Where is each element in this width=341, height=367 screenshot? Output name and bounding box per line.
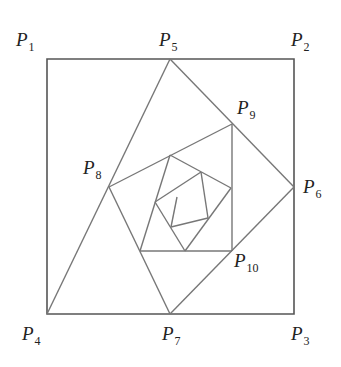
label-p6: P6	[303, 177, 322, 196]
spiral-squares-diagram	[0, 0, 341, 367]
label-p10: P10	[234, 251, 259, 270]
line-g-h	[171, 197, 177, 227]
label-p3: P3	[291, 324, 310, 343]
label-p8: P8	[83, 158, 102, 177]
label-p5: P5	[159, 30, 178, 49]
outer-square	[47, 59, 294, 314]
label-p1: P1	[16, 30, 35, 49]
line-c-d	[155, 202, 185, 251]
label-p7: P7	[162, 324, 181, 343]
label-p4: P4	[22, 324, 41, 343]
line-e-f	[201, 172, 208, 218]
line-b-c	[185, 188, 231, 251]
line-d-e	[155, 172, 201, 202]
label-p2: P2	[291, 30, 310, 49]
line-f-g	[171, 218, 208, 227]
label-p9: P9	[237, 98, 256, 117]
